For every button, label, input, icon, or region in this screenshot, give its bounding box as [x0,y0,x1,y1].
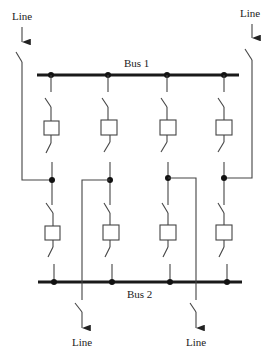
bus-1-label: Bus 1 [124,57,149,69]
line-top-left: Line [12,10,52,180]
disconnect-switch [218,142,224,152]
disconnect-switch [45,98,51,107]
disconnect-switch [102,98,108,107]
disconnect-switch [190,303,196,312]
disconnect-switch [218,203,224,213]
disconnect-switch [161,142,167,152]
bus-2: Bus 2 [38,282,242,300]
single-line-diagram: Bus 1 Bus 2 Line Line [0,0,271,361]
bus-1: Bus 1 [37,57,239,75]
bay-1 [44,72,60,285]
line-bottom-right-label: Line [186,336,206,348]
line-top-right-label: Line [240,7,260,19]
line-bottom-left: Line [72,180,110,348]
disconnect-switch [104,142,110,152]
disconnect-switch [161,98,167,107]
circuit-breaker [160,120,176,135]
disconnect-switch [245,49,252,60]
disconnect-switch [218,98,224,107]
circuit-breaker [44,121,59,135]
circuit-breaker [160,225,176,240]
disconnect-switch [46,143,51,153]
disconnect-switch [16,52,22,62]
line-bottom-right: Line [168,178,206,348]
circuit-breaker [101,120,117,135]
line-top-left-label: Line [12,10,32,22]
disconnect-switch [104,203,110,213]
circuit-breaker [45,226,60,240]
bay-2 [101,72,119,285]
disconnect-switch [48,247,53,257]
disconnect-switch [163,247,168,257]
circuit-breaker [216,225,232,240]
disconnect-switch [162,203,168,213]
disconnect-switch [219,247,224,257]
disconnect-switch [105,247,110,257]
line-top-right: Line [224,7,260,178]
circuit-breaker [103,225,119,240]
bus-2-label: Bus 2 [127,288,152,300]
circuit-breaker [216,120,232,135]
line-bottom-left-label: Line [72,336,92,348]
disconnect-switch [75,303,82,312]
